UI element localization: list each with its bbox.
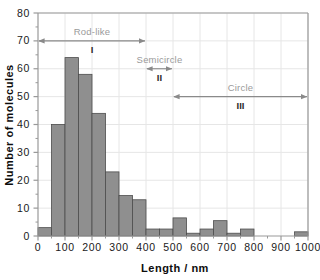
x-axis-title: Length / nm <box>141 262 209 274</box>
histogram-bar <box>173 218 187 236</box>
histogram-bar <box>52 125 66 237</box>
histogram-bar <box>65 58 79 236</box>
axis-ticks-x <box>38 236 308 241</box>
histogram-bar <box>79 74 93 236</box>
x-tick-label: 500 <box>163 241 182 253</box>
x-tick-label: 300 <box>109 241 128 253</box>
histogram-bar <box>133 200 147 236</box>
x-tick-label: 100 <box>55 241 74 253</box>
histogram-chart: 01002003004005006007008009001000 0102030… <box>0 0 320 280</box>
x-tick-label: 1000 <box>295 241 320 253</box>
x-tick-label: 400 <box>136 241 155 253</box>
annotation-label: Semicircle <box>137 54 183 65</box>
annotation-roman-numeral: III <box>237 100 245 111</box>
y-tick-label: 50 <box>17 90 30 102</box>
annotation-roman-numeral: II <box>157 72 162 83</box>
x-tick-labels: 01002003004005006007008009001000 <box>35 241 320 253</box>
y-tick-label: 20 <box>17 174 30 186</box>
y-tick-labels: 01020304050607080 <box>17 7 30 242</box>
y-axis-title: Number of molecules <box>3 64 15 185</box>
histogram-bar <box>214 221 228 236</box>
y-tick-label: 0 <box>24 230 30 242</box>
x-tick-label: 200 <box>82 241 101 253</box>
y-tick-label: 80 <box>17 7 30 19</box>
annotation-roman-numeral: I <box>91 44 94 55</box>
histogram-bar <box>160 229 174 236</box>
annotation-label: Circle <box>228 82 253 93</box>
x-tick-label: 700 <box>217 241 236 253</box>
axis-ticks-y <box>34 13 39 236</box>
histogram-bar <box>106 172 120 236</box>
chart-svg: 01002003004005006007008009001000 0102030… <box>0 0 320 280</box>
histogram-bar <box>38 228 52 236</box>
annotation-label: Rod-like <box>74 26 110 37</box>
y-tick-label: 10 <box>17 202 30 214</box>
histogram-bar <box>119 196 133 236</box>
histogram-bar <box>241 229 255 236</box>
y-tick-label: 60 <box>17 62 30 74</box>
y-tick-label: 40 <box>17 118 30 130</box>
x-tick-label: 900 <box>271 241 290 253</box>
y-tick-label: 30 <box>17 146 30 158</box>
histogram-bar <box>92 113 106 236</box>
histogram-bar <box>295 232 309 236</box>
histogram-bar <box>146 229 160 236</box>
x-tick-label: 600 <box>190 241 209 253</box>
histogram-bar <box>200 229 214 236</box>
x-tick-label: 0 <box>35 241 41 253</box>
y-tick-label: 70 <box>17 34 30 46</box>
x-tick-label: 800 <box>244 241 263 253</box>
